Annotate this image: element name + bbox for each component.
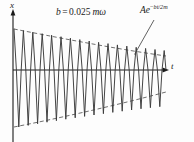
- damping-equals-sign: =: [61, 7, 69, 17]
- plot-canvas: [0, 0, 194, 142]
- envelope-formula-label: Ae−bt/2m: [140, 6, 168, 16]
- envelope-exponent-body: bt/2m: [154, 3, 168, 10]
- damped-oscillation-figure: x t b=0.025mω Ae−bt/2m: [0, 0, 194, 142]
- axis-label-t: t: [171, 62, 174, 71]
- damping-value: 0.025: [69, 7, 90, 17]
- envelope-label-leader-line: [135, 20, 155, 55]
- damping-parameter-label: b=0.025mω: [56, 8, 106, 18]
- displacement-curve: [14, 29, 166, 127]
- axis-label-x: x: [10, 1, 14, 10]
- envelope-exponent: −bt/2m: [150, 3, 168, 10]
- damping-units: mω: [90, 7, 106, 17]
